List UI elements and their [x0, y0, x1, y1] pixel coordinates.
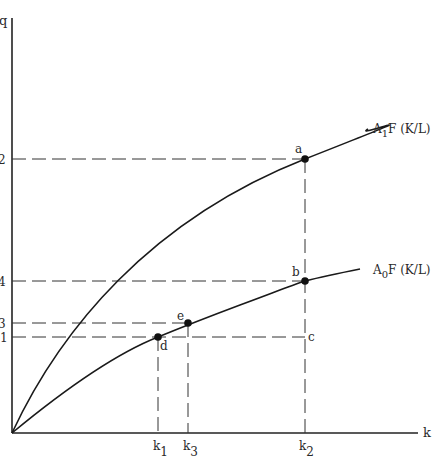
- x-tick-k2: k2: [299, 439, 314, 459]
- point-label-a: a: [295, 142, 302, 156]
- point-b: [301, 277, 309, 285]
- y-tick-q2: 2: [0, 153, 6, 167]
- point-label-b: b: [292, 265, 300, 279]
- production-function-diagram: q k A1F (K/L) A0F (K/L) a b c d e 2 4 3 …: [0, 0, 445, 469]
- y-axis-label: q: [0, 13, 7, 28]
- curve-label-lower: A0F (K/L): [372, 263, 431, 280]
- x-axis-label: k: [423, 425, 431, 440]
- point-label-e: e: [177, 309, 184, 323]
- point-label-d: d: [160, 339, 168, 353]
- curve-label-upper: A1F (K/L): [372, 122, 431, 139]
- x-tick-k1: k1: [153, 439, 168, 459]
- guide-lines: [12, 159, 305, 433]
- x-tick-k3: k3: [183, 439, 198, 459]
- y-tick-q4: 4: [0, 275, 6, 289]
- point-e: [184, 319, 192, 327]
- point-a: [301, 155, 309, 163]
- curve-a1-f: [12, 125, 389, 433]
- y-tick-q1: 1: [0, 331, 8, 345]
- curve-a0-f: [12, 269, 360, 433]
- point-label-c: c: [308, 330, 315, 344]
- y-tick-q3: 3: [0, 317, 6, 331]
